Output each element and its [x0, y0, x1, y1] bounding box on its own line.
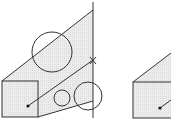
diagram-svg [0, 0, 171, 127]
source-dot [26, 104, 29, 107]
source-square [2, 81, 38, 117]
left-figure [2, 2, 102, 118]
right-figure [133, 53, 171, 118]
diagram-canvas [0, 0, 171, 127]
right-dot [158, 106, 161, 109]
right-square [133, 82, 171, 118]
